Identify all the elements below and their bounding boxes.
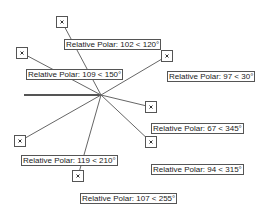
point-marker-30[interactable]	[162, 51, 173, 62]
polar-label-255: Relative Polar: 107 < 255°	[80, 193, 177, 204]
point-marker-120[interactable]	[57, 17, 68, 28]
point-marker-210[interactable]	[15, 136, 26, 147]
spoke-line-315	[101, 95, 151, 142]
polar-label-315: Relative Polar: 94 < 315°	[151, 164, 244, 175]
polar-label-30: Relative Polar: 97 < 30°	[167, 71, 255, 82]
point-marker-255[interactable]	[73, 171, 84, 182]
polar-label-150: Relative Polar: 109 < 150°	[26, 69, 123, 80]
spoke-line-345	[101, 95, 151, 107]
polar-label-210: Relative Polar: 119 < 210°	[21, 155, 118, 166]
polar-label-120: Relative Polar: 102 < 120°	[64, 39, 161, 50]
point-marker-150[interactable]	[17, 48, 28, 59]
point-marker-345[interactable]	[146, 102, 157, 113]
point-marker-315[interactable]	[146, 137, 157, 148]
polar-label-345: Relative Polar: 67 < 345°	[151, 123, 244, 134]
polar-diagram-canvas	[0, 0, 257, 211]
spoke-line-210	[20, 95, 101, 141]
spoke-line-120	[62, 22, 101, 95]
